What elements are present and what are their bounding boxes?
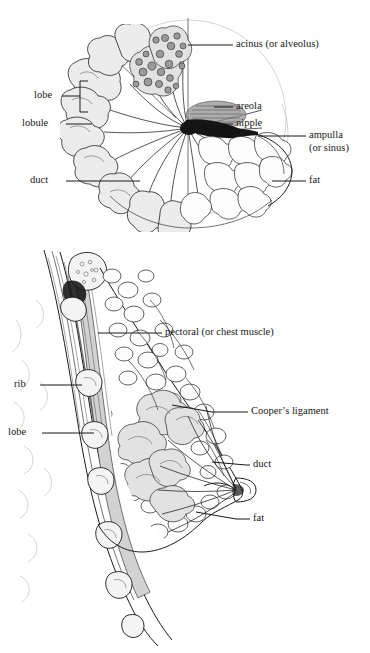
label-lobe-bottom: lobe [8,426,26,437]
label-nipple: nipple [236,117,263,128]
label-rib: rib [14,378,26,389]
label-duct-top: duct [30,174,48,185]
bottom-panel-sagittal-view: pectoral (or chest muscle) Cooper’s liga… [8,250,329,646]
anatomy-illustration-canvas: acinus (or alveolus) areola nipple ampul… [0,0,370,653]
label-lobule: lobule [22,117,49,128]
fat-lobules-anterior [180,133,292,224]
label-pectoral: pectoral (or chest muscle) [165,326,274,338]
label-fat-top: fat [309,174,320,185]
glandular-lobes-sagittal [118,390,204,521]
nipple-sagittal [233,478,256,502]
label-ampulla-line1: ampulla [309,129,343,140]
label-lobe-top: lobe [34,89,52,100]
label-areola: areola [236,100,262,111]
label-coopers-ligament: Cooper’s ligament [251,405,329,416]
label-acinus: acinus (or alveolus) [236,38,319,50]
label-duct-bottom: duct [253,458,271,469]
label-fat-bottom: fat [253,512,264,523]
label-ampulla-line2: (or sinus) [309,142,349,154]
top-panel-anterior-view: acinus (or alveolus) areola nipple ampul… [22,18,349,240]
breast-anatomy-figure: acinus (or alveolus) areola nipple ampul… [0,0,370,653]
